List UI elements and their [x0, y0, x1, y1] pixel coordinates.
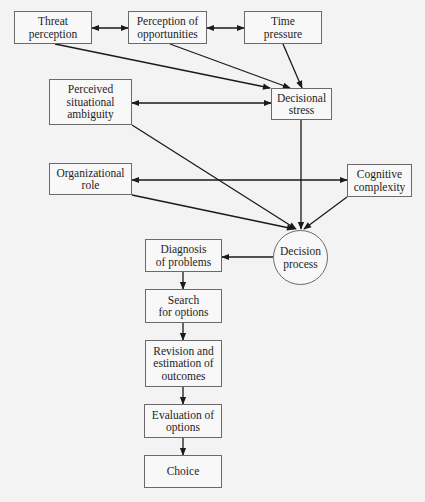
- arrow-cognitive-to-process: [304, 197, 347, 229]
- node-cognitive-complexity: Cognitive complexity: [347, 164, 412, 197]
- node-decision-process: Decision process: [273, 230, 328, 285]
- node-search-for-options: Search for options: [145, 289, 222, 323]
- node-time-pressure: Time pressure: [244, 11, 322, 44]
- arrow-time-to-stress: [283, 44, 302, 88]
- node-perception-of-opportunities: Perception of opportunities: [128, 11, 207, 44]
- node-threat-perception: Threat perception: [14, 11, 92, 44]
- node-evaluation-of-options: Evaluation of options: [144, 404, 222, 438]
- node-diagnosis-of-problems: Diagnosis of problems: [145, 239, 222, 272]
- node-choice: Choice: [144, 455, 222, 488]
- node-revision-and-estimation: Revision and estimation of outcomes: [145, 340, 222, 387]
- decision-flow-diagram: Threat perception Perception of opportun…: [0, 0, 425, 502]
- node-decisional-stress: Decisional stress: [271, 88, 332, 120]
- node-perceived-situational-ambiguity: Perceived situational ambiguity: [49, 79, 132, 125]
- node-organizational-role: Organizational role: [49, 163, 132, 195]
- arrow-ambiguity-to-process: [132, 125, 296, 229]
- arrow-opportunities-to-stress: [170, 44, 290, 88]
